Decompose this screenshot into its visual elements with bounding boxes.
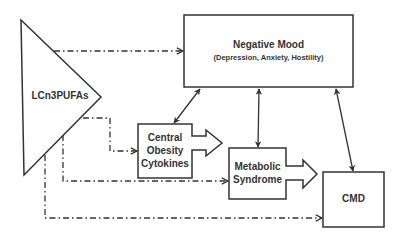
central-obesity-label: Central Obesity Cytokines (138, 131, 192, 170)
metabolic-syndrome-label: Metabolic Syndrome (229, 160, 286, 186)
negative-mood-label: Negative Mood (184, 39, 353, 51)
metabolic-syndrome-line2: Syndrome (229, 173, 286, 186)
cmd-label: CMD (323, 193, 384, 205)
negative-mood-sublabel: (Depression, Anxiety, Hostility) (184, 53, 353, 62)
negative-mood-node (184, 15, 353, 87)
edge-negative-mood-metabolic-syndrome (258, 89, 259, 147)
lcn3pufas-label: LCn3PUFAs (30, 90, 90, 102)
central-obesity-line2: Obesity (138, 144, 192, 157)
edge-negative-mood-central-obesity (174, 89, 200, 123)
central-obesity-line3: Cytokines (138, 157, 192, 170)
central-obesity-line1: Central (138, 131, 192, 144)
metabolic-syndrome-line1: Metabolic (229, 160, 286, 173)
edge-negative-mood-cmd (336, 89, 353, 171)
edge-lcn3-to-central-obesity (83, 118, 137, 151)
